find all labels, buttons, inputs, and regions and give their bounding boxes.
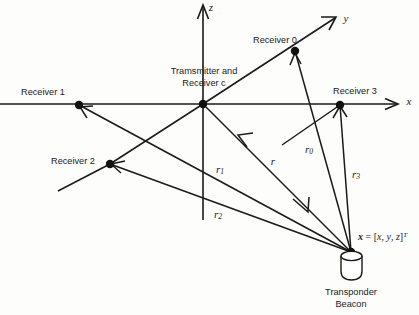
origin-label-line1: Tramsmitter and	[171, 66, 238, 76]
receiver-2-label: Receiver 2	[51, 156, 95, 166]
range-label-r0-sub: 0	[309, 147, 313, 156]
node-dot-receiver-3	[336, 101, 344, 109]
range-ray-r2	[110, 164, 351, 252]
range-label-r2: r2	[214, 208, 222, 221]
origin-label-line2: Receiver c	[182, 78, 226, 88]
range-label-r: r	[271, 155, 276, 167]
range-ray-r0	[295, 51, 351, 252]
node-dot-receiver-0	[291, 47, 299, 55]
node-dot-receiver-1	[75, 101, 83, 109]
z-axis-label: z	[208, 1, 214, 13]
range-label-r3-sub: 3	[355, 172, 360, 181]
axis-group	[0, 5, 398, 220]
diagram-canvas: z y x Tramsmitter and Receiver c Receive…	[0, 0, 419, 315]
beacon-vector-transpose: T	[403, 231, 408, 239]
x-axis-label: x	[406, 95, 412, 107]
range-label-r1-sub: 1	[220, 167, 224, 176]
range-ray-r1	[79, 105, 351, 252]
beacon-caption-line1: Transponder	[325, 287, 377, 297]
beacon-vector-equals: = [	[363, 231, 377, 242]
receiver-3-label: Receiver 3	[333, 86, 377, 96]
range-label-r3: r3	[352, 168, 360, 181]
r-arrowhead-toward-origin	[238, 133, 253, 147]
range-ray-r	[203, 104, 351, 252]
range-label-r1: r1	[216, 163, 224, 176]
transponder-beacon-icon	[341, 251, 362, 280]
node-dot-receiver-2	[106, 160, 114, 168]
node-dot-transmitter-receiver-c	[199, 100, 207, 108]
y-axis-label: y	[343, 12, 349, 24]
beacon-position-vector: x = [x, y, z]T	[357, 231, 408, 243]
beacon-top-ellipse	[341, 251, 362, 260]
receiver2-tail-line	[58, 164, 110, 191]
receiver-1-label: Receiver 1	[21, 87, 65, 97]
range-label-r0: r0	[305, 143, 313, 156]
r-arrowhead-toward-beacon	[293, 197, 309, 212]
range-label-r2-sub: 2	[218, 212, 222, 221]
beacon-caption-line2: Beacon	[335, 299, 366, 309]
transponder-geometry-figure: z y x Tramsmitter and Receiver c Receive…	[0, 0, 419, 315]
receiver-0-label: Receiver 0	[253, 35, 297, 45]
y-axis-line	[203, 18, 335, 104]
origin-to-receiver2-line	[110, 104, 203, 164]
